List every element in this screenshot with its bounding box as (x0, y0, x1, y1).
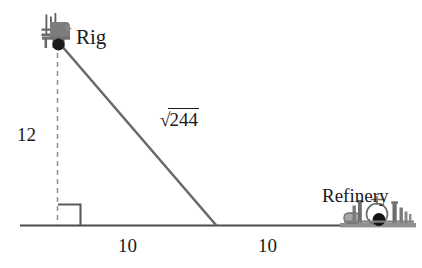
oil-derrick-icon (42, 13, 73, 51)
diagram-canvas: Rig 12 √244 10 10 Refinery (0, 0, 422, 268)
rig-label: Rig (76, 27, 106, 48)
shoreline-segment-1-length-label: 10 (118, 236, 137, 255)
vertical-leg-length-label: 12 (17, 125, 36, 144)
diagram-vector-layer (0, 0, 422, 268)
right-angle-marker-icon (58, 205, 81, 226)
shoreline-segment-2-length-label: 10 (258, 236, 277, 255)
refinery-label: Refinery (322, 186, 388, 205)
radicand-value: 244 (168, 108, 199, 129)
hypotenuse-length-label: √244 (160, 108, 199, 129)
hypotenuse-line (61, 45, 216, 225)
radical-expression: √244 (160, 108, 199, 129)
